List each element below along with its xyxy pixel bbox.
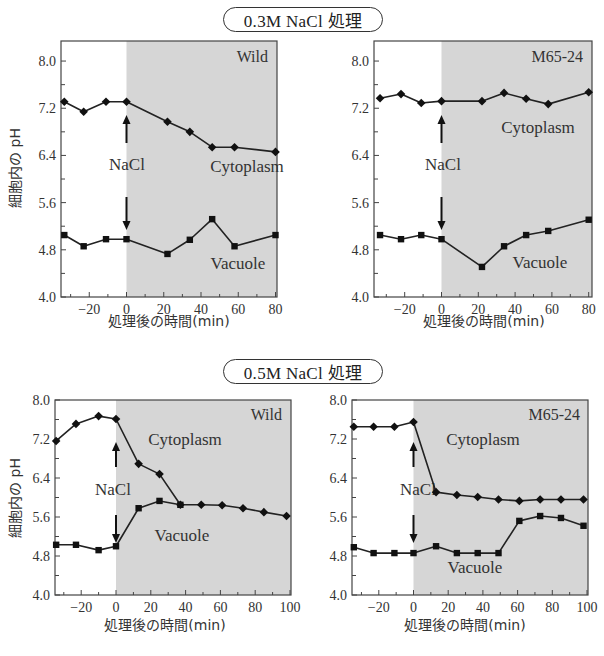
square-marker-icon	[177, 502, 183, 508]
y-tick-label: 6.4	[33, 471, 51, 486]
y-tick-label: 8.0	[330, 393, 348, 408]
strain-label: M65-24	[531, 48, 583, 65]
series-label-cytoplasm: Cytoplasm	[210, 157, 284, 176]
square-marker-icon	[545, 228, 551, 234]
x-tick-label: 100	[577, 600, 598, 615]
square-marker-icon	[516, 518, 522, 524]
series-label-cytoplasm: Cytoplasm	[501, 118, 575, 137]
y-tick-label: 5.6	[352, 196, 370, 211]
nacl-event-label: NaCl	[425, 155, 461, 174]
series-label-vacuole: Vacuole	[211, 254, 266, 273]
y-tick-label: 6.4	[330, 471, 348, 486]
square-marker-icon	[433, 543, 439, 549]
nacl-event-label: NaCl	[95, 480, 131, 499]
chart-panel-3: 4.04.85.66.47.28.0−20020406080100処理後の時間(…	[7, 393, 301, 633]
y-tick-label: 4.0	[39, 290, 57, 305]
y-axis-label: 細胞内の pH	[7, 128, 23, 208]
diamond-marker-icon	[397, 90, 406, 99]
diamond-marker-icon	[417, 99, 426, 108]
y-tick-label: 5.6	[33, 510, 51, 525]
diamond-marker-icon	[94, 412, 103, 421]
y-tick-label: 8.0	[39, 54, 57, 69]
square-marker-icon	[418, 232, 424, 238]
x-tick-label: 20	[441, 600, 455, 615]
x-axis-label: 処理後の時間(min)	[104, 617, 225, 633]
square-marker-icon	[438, 236, 444, 242]
square-marker-icon	[370, 550, 376, 556]
square-marker-icon	[454, 550, 460, 556]
square-marker-icon	[164, 251, 170, 257]
x-tick-label: −20	[368, 600, 390, 615]
square-marker-icon	[231, 243, 237, 249]
y-tick-label: 7.2	[330, 432, 348, 447]
square-marker-icon	[351, 544, 357, 550]
series-label-cytoplasm: Cytoplasm	[148, 430, 222, 449]
series-label-vacuole: Vacuole	[448, 558, 503, 577]
diamond-marker-icon	[376, 94, 385, 103]
diamond-marker-icon	[390, 423, 399, 432]
square-marker-icon	[410, 550, 416, 556]
square-marker-icon	[479, 264, 485, 270]
y-tick-label: 7.2	[39, 101, 57, 116]
x-tick-label: 0	[113, 600, 120, 615]
square-marker-icon	[73, 542, 79, 548]
y-tick-label: 8.0	[33, 393, 51, 408]
chart-panel-2: 4.04.85.66.47.28.0−20020406080処理後の時間(min…	[352, 41, 596, 329]
y-tick-label: 4.8	[33, 549, 51, 564]
x-tick-label: −20	[394, 302, 416, 317]
nacl-event-label: NaCl	[109, 155, 145, 174]
square-marker-icon	[501, 243, 507, 249]
diamond-marker-icon	[79, 107, 88, 116]
diamond-marker-icon	[350, 423, 359, 432]
y-tick-label: 4.8	[352, 243, 370, 258]
y-tick-label: 4.0	[33, 588, 51, 603]
square-marker-icon	[495, 550, 501, 556]
y-tick-label: 7.2	[352, 101, 370, 116]
y-tick-label: 5.6	[330, 510, 348, 525]
y-axis-label: 細胞内の pH	[7, 458, 23, 538]
square-marker-icon	[523, 232, 529, 238]
x-tick-label: 60	[213, 600, 227, 615]
x-axis-label: 処理後の時間(min)	[423, 313, 544, 329]
y-tick-label: 8.0	[352, 54, 370, 69]
series-label-vacuole: Vacuole	[155, 526, 210, 545]
chart-panel-1: 4.04.85.66.47.28.0−20020406080処理後の時間(min…	[7, 41, 284, 329]
x-tick-label: −20	[70, 600, 92, 615]
series-label-cytoplasm: Cytoplasm	[446, 430, 520, 449]
x-tick-label: 40	[179, 600, 193, 615]
square-marker-icon	[537, 513, 543, 519]
strain-label: Wild	[251, 406, 282, 423]
square-marker-icon	[187, 237, 193, 243]
x-tick-label: 100	[280, 600, 301, 615]
diamond-marker-icon	[369, 423, 378, 432]
square-marker-icon	[391, 550, 397, 556]
square-marker-icon	[113, 543, 119, 549]
y-tick-label: 5.6	[39, 196, 57, 211]
square-marker-icon	[95, 547, 101, 553]
chart-panel-4: 4.04.85.66.47.28.0−20020406080100処理後の時間(…	[330, 393, 598, 633]
x-tick-label: 60	[231, 302, 245, 317]
x-tick-label: 80	[248, 600, 262, 615]
square-marker-icon	[123, 236, 129, 242]
square-marker-icon	[272, 232, 278, 238]
square-marker-icon	[103, 236, 109, 242]
x-tick-label: −20	[78, 302, 100, 317]
figure-canvas: 4.04.85.66.47.28.0−20020406080処理後の時間(min…	[0, 0, 604, 656]
diamond-marker-icon	[102, 97, 111, 106]
y-tick-label: 6.4	[352, 148, 370, 163]
square-marker-icon	[156, 498, 162, 504]
x-tick-label: 80	[545, 600, 559, 615]
strain-label: Wild	[237, 48, 268, 65]
square-marker-icon	[61, 232, 67, 238]
nacl-event-label: NaCl	[400, 480, 436, 499]
x-tick-label: 0	[410, 600, 417, 615]
series-label-vacuole: Vacuole	[513, 253, 568, 272]
square-marker-icon	[53, 542, 59, 548]
strain-label: M65-24	[528, 406, 580, 423]
y-tick-label: 4.0	[330, 588, 348, 603]
square-marker-icon	[586, 217, 592, 223]
square-marker-icon	[580, 523, 586, 529]
square-marker-icon	[474, 550, 480, 556]
square-marker-icon	[135, 505, 141, 511]
x-tick-label: 40	[476, 600, 490, 615]
